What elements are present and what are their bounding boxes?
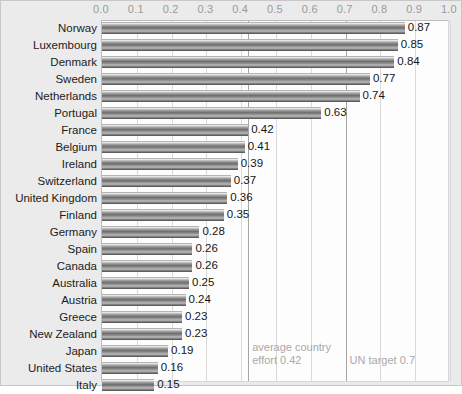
bar-fill [102, 328, 182, 340]
bar-row: Germany0.28 [1, 224, 462, 241]
bar [102, 141, 245, 153]
bar-row: Finland0.35 [1, 207, 462, 224]
bar-row: Netherlands0.74 [1, 88, 462, 105]
bar-value-label: 0.28 [202, 224, 224, 239]
category-label: Sweden [1, 72, 97, 86]
bar-value-label: 0.84 [397, 54, 419, 69]
bar-fill [102, 345, 168, 357]
bar [102, 379, 154, 391]
bar-row: Luxembourg0.85 [1, 37, 462, 54]
x-axis-tick-label: 0.1 [128, 3, 144, 15]
category-label: Italy [1, 378, 97, 392]
category-label: Ireland [1, 157, 97, 171]
reference-line-annotation: UN target 0.7 [350, 354, 415, 367]
x-axis-tick-label: 0.6 [302, 3, 318, 15]
bar-value-label: 0.19 [171, 343, 193, 358]
bar [102, 73, 370, 85]
bar-value-label: 0.41 [248, 139, 270, 154]
bar-fill [102, 209, 224, 221]
bar-value-label: 0.15 [157, 377, 179, 392]
category-label: Australia [1, 276, 97, 290]
bar-value-label: 0.77 [373, 71, 395, 86]
bar-row: Italy0.15 [1, 377, 462, 394]
bar [102, 39, 398, 51]
bar-row: Greece0.23 [1, 309, 462, 326]
bar [102, 345, 168, 357]
bar-value-label: 0.74 [363, 88, 385, 103]
x-axis-tick-label: 0.8 [371, 3, 387, 15]
x-axis-tick-label: 0.0 [93, 3, 109, 15]
category-label: New Zealand [1, 327, 97, 341]
bar-row: Portugal0.63 [1, 105, 462, 122]
bar-fill [102, 294, 186, 306]
bar-value-label: 0.85 [401, 37, 423, 52]
bar-row: Norway0.87 [1, 20, 462, 37]
x-axis-tick-label: 0.2 [163, 3, 179, 15]
bar-fill [102, 107, 321, 119]
bar-row: France0.42 [1, 122, 462, 139]
bar-fill [102, 175, 231, 187]
bar-row: Switzerland0.37 [1, 173, 462, 190]
bar [102, 22, 405, 34]
bar-value-label: 0.26 [195, 241, 217, 256]
bar [102, 124, 248, 136]
category-label: Luxembourg [1, 38, 97, 52]
bar [102, 90, 360, 102]
bar-row: Ireland0.39 [1, 156, 462, 173]
bar-fill [102, 379, 154, 391]
bar [102, 226, 199, 238]
bar-value-label: 0.87 [408, 20, 430, 35]
bar-row: Denmark0.84 [1, 54, 462, 71]
bar [102, 328, 182, 340]
bar-value-label: 0.37 [234, 173, 256, 188]
bar-fill [102, 362, 158, 374]
bar [102, 243, 192, 255]
bar-fill [102, 311, 182, 323]
bar-fill [102, 277, 189, 289]
bar [102, 209, 224, 221]
bar-fill [102, 39, 398, 51]
bar [102, 294, 186, 306]
category-label: Portugal [1, 106, 97, 120]
bar-row: Austria0.24 [1, 292, 462, 309]
category-label: Austria [1, 293, 97, 307]
category-label: United States [1, 361, 97, 375]
bar [102, 362, 158, 374]
category-label: United Kingdom [1, 191, 97, 205]
bar-fill [102, 260, 192, 272]
x-axis-tick-label: 0.5 [267, 3, 283, 15]
bar-value-label: 0.16 [161, 360, 183, 375]
x-axis-tick-label: 0.3 [197, 3, 213, 15]
category-label: France [1, 123, 97, 137]
bar-fill [102, 243, 192, 255]
bar-row: Canada0.26 [1, 258, 462, 275]
bar-value-label: 0.63 [324, 105, 346, 120]
bar-fill [102, 158, 238, 170]
bar [102, 260, 192, 272]
category-label: Canada [1, 259, 97, 273]
bar-value-label: 0.23 [185, 309, 207, 324]
bar-fill [102, 90, 360, 102]
bar-value-label: 0.39 [241, 156, 263, 171]
bar-row: Spain0.26 [1, 241, 462, 258]
bar [102, 311, 182, 323]
bar [102, 107, 321, 119]
reference-line-annotation: average country effort 0.42 [252, 341, 331, 367]
bar-value-label: 0.25 [192, 275, 214, 290]
category-label: Germany [1, 225, 97, 239]
bar-value-label: 0.42 [251, 122, 273, 137]
bar [102, 158, 238, 170]
bar-row: New Zealand0.23 [1, 326, 462, 343]
category-label: Japan [1, 344, 97, 358]
x-axis-tick-labels: 0.00.10.20.30.40.50.60.70.80.91.0 [1, 3, 462, 19]
category-label: Netherlands [1, 89, 97, 103]
bar-value-label: 0.24 [189, 292, 211, 307]
bar-value-label: 0.36 [230, 190, 252, 205]
category-label: Switzerland [1, 174, 97, 188]
bar-fill [102, 56, 394, 68]
bar [102, 192, 227, 204]
category-label: Belgium [1, 140, 97, 154]
bar-fill [102, 141, 245, 153]
bar-row: Sweden0.77 [1, 71, 462, 88]
